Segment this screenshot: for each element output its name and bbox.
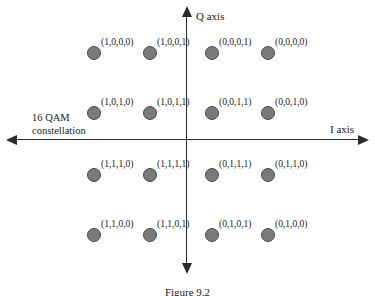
constellation-point-label: (0,0,0,0) bbox=[275, 38, 307, 48]
constellation-point-marker bbox=[205, 106, 219, 120]
constellation-point-marker bbox=[87, 168, 101, 182]
constellation-point-label: (0,1,1,1) bbox=[219, 160, 251, 170]
constellation-point-label: (1,1,0,1) bbox=[157, 220, 189, 230]
constellation-point-label: (1,0,0,0) bbox=[101, 38, 133, 48]
constellation-point-label: (0,0,1,0) bbox=[275, 98, 307, 108]
i-axis-arrowhead-left bbox=[6, 135, 17, 145]
q-axis-arrowhead-down bbox=[182, 263, 192, 274]
constellation-point-label: (1,0,0,1) bbox=[157, 38, 189, 48]
constellation-point-marker bbox=[261, 168, 275, 182]
constellation-point-label: (0,0,0,1) bbox=[219, 38, 251, 48]
constellation-point-label: (0,1,1,0) bbox=[275, 160, 307, 170]
figure-caption: Figure 9.2 bbox=[0, 286, 375, 296]
constellation-point-marker bbox=[143, 168, 157, 182]
constellation-point-marker bbox=[143, 46, 157, 60]
q-axis-label: Q axis bbox=[196, 11, 224, 22]
i-axis-arrowhead-right bbox=[358, 135, 369, 145]
constellation-point-marker bbox=[87, 46, 101, 60]
constellation-point-marker bbox=[87, 106, 101, 120]
constellation-annotation: 16 QAM constellation bbox=[32, 111, 86, 137]
qam-constellation-figure: Q axis I axis 16 QAM constellation (1,0,… bbox=[0, 0, 375, 296]
constellation-point-marker bbox=[87, 228, 101, 242]
q-axis-line bbox=[186, 14, 187, 268]
constellation-point-marker bbox=[205, 168, 219, 182]
constellation-point-marker bbox=[261, 228, 275, 242]
i-axis-line bbox=[14, 139, 361, 140]
constellation-point-marker bbox=[261, 106, 275, 120]
constellation-point-label: (0,1,0,1) bbox=[219, 220, 251, 230]
constellation-point-label: (1,0,1,1) bbox=[157, 98, 189, 108]
constellation-point-marker bbox=[143, 228, 157, 242]
constellation-point-label: (1,1,1,0) bbox=[101, 160, 133, 170]
constellation-point-label: (1,0,1,0) bbox=[101, 98, 133, 108]
constellation-point-marker bbox=[143, 106, 157, 120]
constellation-annotation-line2: constellation bbox=[32, 124, 86, 137]
constellation-point-label: (0,0,1,1) bbox=[219, 98, 251, 108]
constellation-point-marker bbox=[261, 46, 275, 60]
constellation-point-marker bbox=[205, 46, 219, 60]
constellation-point-label: (1,1,1,1) bbox=[157, 160, 189, 170]
constellation-point-label: (0,1,0,0) bbox=[275, 220, 307, 230]
constellation-point-label: (1,1,0,0) bbox=[101, 220, 133, 230]
constellation-point-marker bbox=[205, 228, 219, 242]
constellation-annotation-line1: 16 QAM bbox=[32, 111, 86, 124]
i-axis-label: I axis bbox=[330, 124, 354, 135]
q-axis-arrowhead-up bbox=[182, 6, 192, 17]
